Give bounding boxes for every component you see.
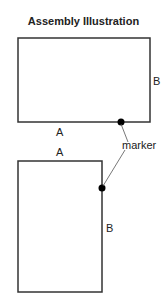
bottom-leader-line <box>103 150 125 186</box>
bottom-rectangle <box>18 161 102 292</box>
bottom-label-b: B <box>106 222 113 234</box>
top-label-b: B <box>153 75 160 87</box>
top-label-a: A <box>56 126 63 138</box>
top-rectangle <box>18 38 150 122</box>
bottom-marker-dot <box>99 185 106 192</box>
bottom-label-a: A <box>56 146 63 158</box>
marker-label: marker <box>122 139 156 151</box>
